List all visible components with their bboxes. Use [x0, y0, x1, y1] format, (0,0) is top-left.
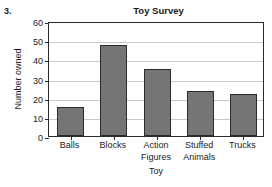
y-tick-mark — [45, 23, 49, 24]
x-category-label-line: Animals — [178, 152, 221, 164]
y-axis-title: Number owned — [13, 48, 23, 109]
y-tick-mark — [45, 119, 49, 120]
bar — [100, 45, 127, 136]
y-axis-title-container: Number owned — [11, 20, 25, 138]
y-tick-mark — [45, 100, 49, 101]
x-axis-title: Toy — [48, 166, 264, 176]
gridline — [49, 42, 263, 43]
y-tick-label: 40 — [33, 57, 43, 66]
x-category-label: StuffedAnimals — [178, 140, 221, 163]
x-category-label-line: Figures — [134, 152, 177, 164]
chart-title: Toy Survey — [45, 5, 272, 16]
y-tick-mark — [45, 81, 49, 82]
x-category-label: Trucks — [221, 140, 264, 152]
y-tick-label: 50 — [33, 38, 43, 47]
plot-inner: 0102030405060 — [49, 23, 263, 136]
x-category-label-line: Stuffed — [178, 140, 221, 152]
y-tick-mark — [45, 61, 49, 62]
x-category-label: Blocks — [91, 140, 134, 152]
gridline — [49, 61, 263, 62]
bar — [230, 94, 257, 136]
bar — [187, 91, 214, 136]
y-tick-label: 20 — [33, 95, 43, 104]
plot-area: 0102030405060 — [48, 22, 264, 137]
y-tick-mark — [45, 42, 49, 43]
x-category-label: Balls — [48, 140, 91, 152]
x-category-label-line: Blocks — [91, 140, 134, 152]
x-category-label-line: Trucks — [221, 140, 264, 152]
x-axis-category-labels: BallsBlocksActionFiguresStuffedAnimalsTr… — [48, 140, 264, 168]
x-category-label-line: Balls — [48, 140, 91, 152]
bar — [144, 69, 171, 136]
y-tick-mark — [45, 138, 49, 139]
y-tick-label: 30 — [33, 76, 43, 85]
y-tick-label: 60 — [33, 19, 43, 28]
bar-chart-figure: 3. Toy Survey Number owned 0102030405060… — [0, 0, 272, 187]
problem-number: 3. — [4, 6, 12, 16]
x-category-label: ActionFigures — [134, 140, 177, 163]
bar — [57, 107, 84, 136]
y-tick-label: 10 — [33, 114, 43, 123]
x-category-label-line: Action — [134, 140, 177, 152]
y-tick-label: 0 — [38, 134, 43, 143]
